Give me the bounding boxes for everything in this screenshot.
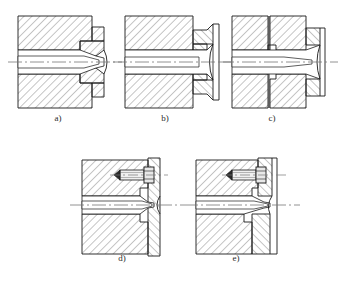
insert-upper-b [193, 24, 213, 44]
figure-a-geometry [8, 16, 122, 108]
figure-c-caption: c) [252, 113, 292, 123]
insert-upper-c [306, 28, 320, 45]
figure-c-geometry [220, 16, 338, 108]
insert-lower-b [193, 80, 213, 100]
figure-e-geometry [184, 158, 300, 254]
insert-lower-c [306, 79, 320, 96]
figure-b-caption: b) [145, 113, 185, 123]
nozzle-seat-e [252, 214, 270, 254]
figure-d [64, 144, 194, 264]
figure-a-caption: a) [38, 113, 78, 123]
figure-d-caption: d) [102, 253, 142, 263]
figure-c [214, 0, 342, 115]
figure-d-geometry [70, 158, 184, 256]
figure-e-caption: e) [216, 253, 256, 263]
figure-e [178, 144, 308, 264]
